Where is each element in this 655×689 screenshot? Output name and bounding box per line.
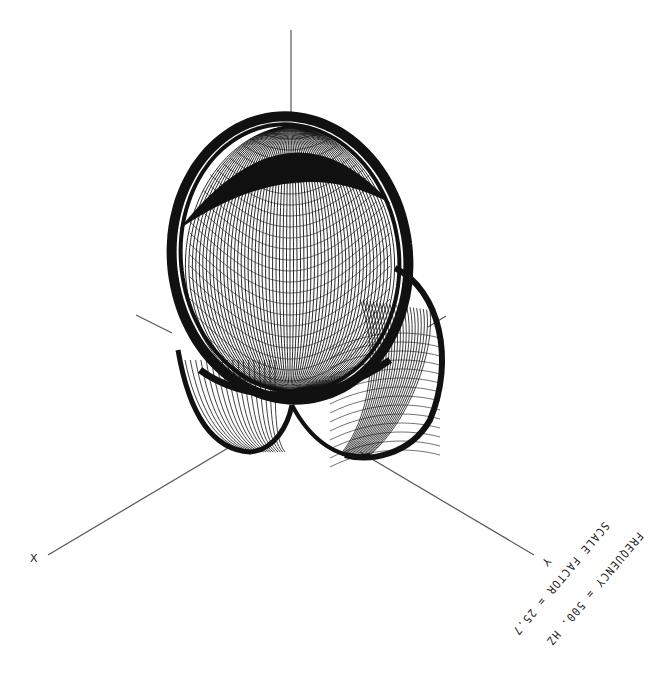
x-axis-line-near	[48, 448, 228, 555]
y-axis-line-near	[360, 452, 534, 555]
wireframe-surface	[172, 116, 442, 467]
axes	[48, 30, 534, 555]
x-axis-line-far	[136, 315, 172, 333]
x-axis-label: X	[30, 553, 38, 564]
